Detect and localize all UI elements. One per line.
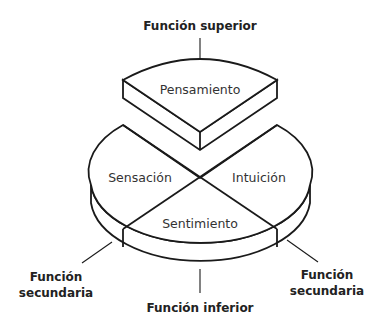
function-diagram: Pensamiento Sensación Intuición Sentimie… xyxy=(0,0,378,333)
label-funcion-superior: Función superior xyxy=(143,19,257,33)
label-funcion-secundaria-right-1: Función xyxy=(301,268,354,282)
label-funcion-inferior: Función inferior xyxy=(146,301,253,315)
label-funcion-secundaria-left-1: Función xyxy=(30,270,83,284)
segment-label-intuicion: Intuición xyxy=(232,170,286,185)
top-wedge xyxy=(123,59,277,150)
leader-secondary-right xyxy=(287,240,318,262)
label-funcion-secundaria-left-2: secundaria xyxy=(19,286,93,300)
label-funcion-secundaria-right-2: secundaria xyxy=(290,284,364,298)
segment-label-sentimiento: Sentimiento xyxy=(162,216,238,231)
segment-label-sensacion: Sensación xyxy=(108,170,172,185)
leader-secondary-left xyxy=(82,242,112,263)
segment-label-pensamiento: Pensamiento xyxy=(160,82,241,97)
